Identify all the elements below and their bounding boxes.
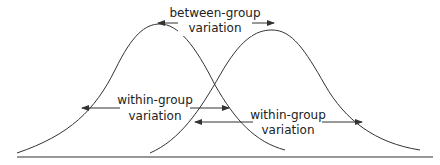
within-group-right-label-line1: within-group xyxy=(250,108,326,122)
between-group-label-line2: variation xyxy=(188,21,241,35)
within-group-right-label-line2: variation xyxy=(261,123,314,137)
within-group-left-label-line1: within-group xyxy=(117,93,193,107)
group-1-curve xyxy=(17,24,285,153)
within-group-left-label-line2: variation xyxy=(128,109,181,123)
diagram-svg: between-group variation within-group var… xyxy=(0,0,440,165)
variation-diagram: between-group variation within-group var… xyxy=(0,0,440,165)
between-group-label-line1: between-group xyxy=(169,6,260,20)
